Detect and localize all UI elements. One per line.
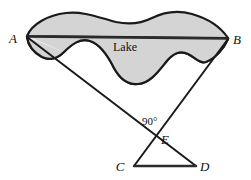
lake-name-label: Lake [113, 40, 137, 54]
vertex-label-D: D [199, 159, 210, 174]
figure-canvas: A B C D E 90° Lake [0, 0, 251, 180]
lake-geometry-diagram: A B C D E 90° Lake [0, 0, 251, 180]
vertex-label-B: B [233, 32, 241, 47]
vertex-label-E: E [160, 132, 169, 147]
vertex-label-A: A [8, 31, 17, 46]
angle-label-90-degrees: 90° [142, 115, 157, 127]
vertex-label-C: C [116, 159, 125, 174]
lake-shape-upper [27, 12, 228, 38]
